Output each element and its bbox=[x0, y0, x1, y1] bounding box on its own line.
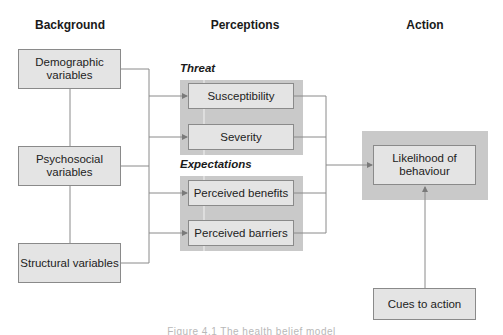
structural-variables-box: Structural variables bbox=[18, 243, 121, 283]
severity-box: Severity bbox=[188, 124, 294, 150]
threat-label: Threat bbox=[180, 62, 215, 74]
cues-to-action-box: Cues to action bbox=[373, 288, 476, 320]
expectations-label: Expectations bbox=[180, 158, 252, 170]
perceived-barriers-box: Perceived barriers bbox=[188, 220, 294, 246]
psychosocial-variables-box: Psychosocial variables bbox=[18, 146, 121, 186]
demographic-variables-box: Demographic variables bbox=[18, 49, 121, 89]
perceived-benefits-box: Perceived benefits bbox=[188, 180, 294, 206]
susceptibility-box: Susceptibility bbox=[188, 83, 294, 109]
likelihood-of-behaviour-box: Likelihood of behaviour bbox=[373, 145, 476, 185]
figure-caption: Figure 4.1 The health belief model bbox=[0, 326, 503, 335]
